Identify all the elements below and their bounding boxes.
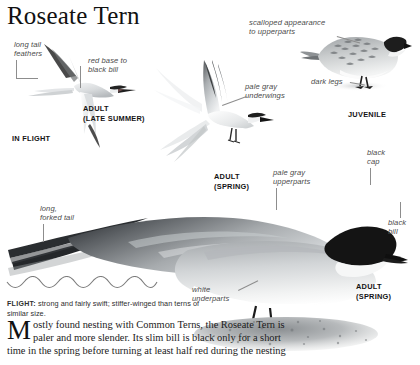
annotation-pale-gray-upperparts: pale gray upperparts bbox=[273, 168, 333, 187]
annotation-black-bill: black bill bbox=[388, 218, 418, 237]
leader-black-bill bbox=[400, 202, 401, 218]
annotation-black-cap: black cap bbox=[367, 148, 403, 167]
caption-adult-late-summer: ADULT (LATE SUMMER) bbox=[83, 104, 145, 123]
annotation-scalloped-appearance: scalloped appearance to upperparts bbox=[249, 18, 341, 37]
annotation-long-forked-tail: long, forked tail bbox=[40, 204, 100, 223]
leader-long-tail-feathers-foot bbox=[16, 78, 38, 79]
flight-note: FLIGHT: strong and fairly swift; stiffer… bbox=[7, 299, 212, 320]
caption-juvenile: JUVENILE bbox=[348, 110, 386, 120]
caption-in-flight: IN FLIGHT bbox=[12, 134, 50, 144]
caption-adult-spring-flight: ADULT (SPRING) bbox=[214, 172, 249, 191]
leader-pale-gray-upperparts bbox=[276, 188, 277, 210]
leader-black-cap bbox=[370, 168, 371, 185]
annotation-long-tail-feathers: long tail feathers bbox=[14, 40, 74, 59]
flight-note-lead: FLIGHT: bbox=[7, 300, 36, 307]
leader-long-tail-feathers bbox=[16, 60, 17, 78]
illustration-adult-spring-flight bbox=[150, 52, 275, 170]
species-description: Mostly found nesting with Common Terns, … bbox=[7, 318, 292, 358]
flight-note-text: strong and fairly swift; stiffer-winged … bbox=[7, 299, 199, 318]
leader-long-forked-tail bbox=[43, 224, 44, 242]
page-title: Roseate Tern bbox=[7, 2, 140, 30]
annotation-red-base-to-black-bill: red base to black bill bbox=[88, 56, 156, 75]
species-description-text: ostly found nesting with Common Terns, t… bbox=[7, 319, 286, 356]
leader-red-base-to-black-bill bbox=[80, 66, 81, 88]
flight-pattern-wave bbox=[6, 276, 158, 296]
caption-adult-spring-perched: ADULT (SPRING) bbox=[356, 282, 391, 301]
field-guide-page: Roseate Tern bbox=[0, 0, 420, 365]
dropcap: M bbox=[7, 318, 33, 341]
annotation-pale-gray-underwings: pale gray underwings bbox=[245, 82, 307, 101]
